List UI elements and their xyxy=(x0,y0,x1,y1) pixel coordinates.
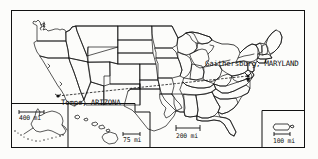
scale-label-main: 200 mi xyxy=(176,133,198,139)
us-map-figure: Gaithersburg, MARYLAND Tempe, ARIZONA 20… xyxy=(0,0,318,159)
map-background xyxy=(0,0,318,159)
city-label-gaithersburg: Gaithersburg, MARYLAND xyxy=(205,60,299,67)
map-canvas xyxy=(0,0,318,159)
city-label-tempe: Tempe, ARIZONA xyxy=(61,99,121,106)
scale-label-puerto-rico: 100 mi xyxy=(273,138,295,144)
scale-label-alaska: 400 mi xyxy=(19,115,41,121)
scale-label-hawaii: 75 mi xyxy=(123,137,141,143)
